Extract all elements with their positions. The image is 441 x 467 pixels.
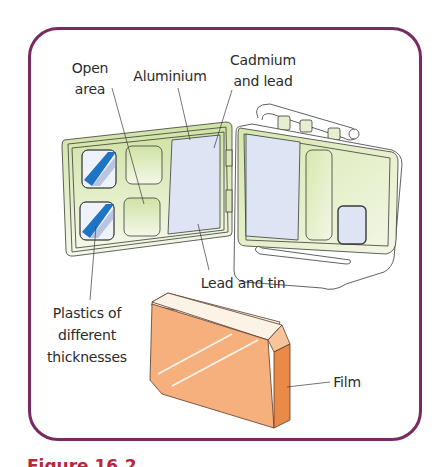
film-packet [150,293,290,428]
badge-right-half [234,104,402,289]
open-area-lower [124,198,160,236]
metal-filter-right [246,134,300,240]
label-plastics: Plastics of different thicknesses [40,302,134,368]
figure-caption: Figure 16.2 [27,455,137,467]
plastic-filter-upper [82,150,116,188]
label-plastics-line-3: thicknesses [40,346,134,368]
label-open-area-line-1: Open [66,58,114,79]
badge-left-half [62,122,232,256]
metal-filter-left [168,135,220,234]
label-plastics-line-1: Plastics of [40,302,134,324]
label-cadmium-line-1: Cadmium [226,50,300,71]
film-side [274,344,290,428]
label-film: Film [332,372,362,393]
label-lead-and-tin: Lead and tin [196,273,290,294]
label-cadmium-and-lead: Cadmium and lead [226,50,300,92]
plastic-filter-lower [80,202,114,240]
small-filter-right [338,206,366,244]
label-open-area-line-2: area [66,79,114,100]
label-cadmium-line-2: and lead [226,71,300,92]
open-area-upper [126,146,162,184]
label-open-area: Open area [66,58,114,100]
open-slot-right [306,150,332,240]
label-aluminium: Aluminium [130,66,210,87]
label-plastics-line-2: different [40,324,134,346]
